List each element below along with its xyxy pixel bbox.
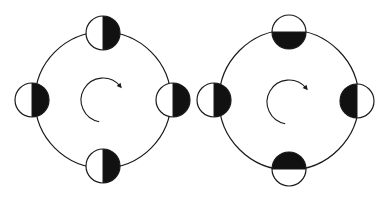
body-top — [86, 16, 120, 50]
dark-half — [214, 83, 231, 117]
dark-half — [103, 16, 120, 50]
orbit-diagrams — [0, 0, 385, 197]
body-bottom — [86, 149, 120, 183]
dark-half — [103, 149, 120, 183]
orbit-path — [219, 30, 359, 170]
rotation-arrow-icon — [81, 78, 120, 122]
body-bottom — [272, 152, 306, 186]
dark-half — [272, 32, 306, 49]
body-left — [15, 83, 49, 117]
dark-half — [340, 84, 357, 118]
body-left — [197, 83, 231, 117]
body-right — [340, 84, 374, 118]
rotation-arrow-icon — [267, 80, 306, 124]
body-top — [272, 15, 306, 49]
dark-half — [272, 152, 306, 169]
dark-half — [173, 83, 190, 117]
body-right — [156, 83, 190, 117]
orbit-path — [35, 32, 171, 168]
dark-half — [32, 83, 49, 117]
diagram-tidally-locked — [197, 15, 374, 186]
diagram-fixed-orientation — [15, 16, 190, 183]
